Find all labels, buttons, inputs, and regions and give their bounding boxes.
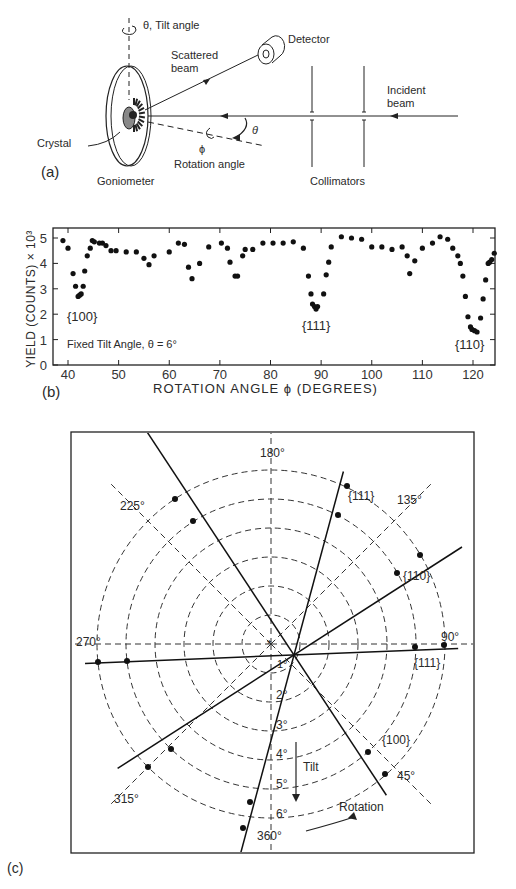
rot-label-135: 135° (397, 493, 422, 507)
x-tick-label: 80 (263, 367, 277, 382)
x-tick-label: 40 (61, 367, 75, 382)
data-point (243, 247, 248, 252)
intersection-dot (382, 771, 388, 777)
panel-c-label: (c) (7, 860, 23, 876)
data-point (260, 240, 265, 245)
data-point (379, 244, 384, 249)
panel-b-label: (b) (42, 383, 60, 400)
data-point (134, 249, 139, 254)
tilt-arrow-icon (292, 794, 300, 802)
intersection-dot (172, 496, 178, 502)
x-tick-label: 50 (111, 367, 125, 382)
y-axis-title: YIELD (COUNTS) × 10³ (24, 224, 38, 374)
data-point (339, 234, 344, 239)
plane-label-111-top: {111} (348, 489, 374, 503)
data-point (489, 257, 494, 262)
data-point (151, 253, 156, 258)
data-point (463, 294, 468, 299)
data-point (197, 261, 202, 266)
data-point (82, 268, 87, 273)
intersection-dot (247, 799, 253, 805)
dip-label-111: {111} (302, 318, 330, 333)
x-axis-title: ROTATION ANGLE ϕ (DEGREES) (153, 381, 378, 396)
rotation-curl-icon (206, 128, 214, 139)
intersection-dot (335, 512, 341, 518)
intersection-dot (168, 746, 174, 752)
plane-line-111-horizontal (85, 648, 458, 663)
data-point (349, 235, 354, 240)
data-point (329, 244, 334, 249)
rot-label-225: 225° (120, 499, 145, 513)
x-tick-label: 60 (162, 367, 176, 382)
crystal-core (129, 111, 137, 119)
data-point (306, 274, 311, 279)
data-point (445, 237, 450, 242)
scatter-spike (139, 119, 144, 122)
data-point (206, 244, 211, 249)
y-tick-label: 5 (40, 231, 47, 246)
data-point (73, 284, 78, 289)
data-point (430, 240, 435, 245)
data-point (324, 272, 329, 277)
rot-label-315: 315° (114, 792, 139, 806)
tilt-angle-label: θ, Tilt angle (143, 19, 199, 31)
theta-symbol: θ (252, 124, 258, 136)
rotation-arrow-shaft (306, 817, 354, 831)
x-tick-label: 100 (361, 367, 383, 382)
data-point (492, 251, 497, 256)
data-point (483, 277, 488, 282)
detector-aperture (263, 50, 269, 58)
x-tick-label: 120 (462, 367, 484, 382)
data-point (359, 237, 364, 242)
data-point (407, 271, 412, 276)
intersection-dot (95, 659, 101, 665)
theta-arc (235, 118, 247, 138)
center-marker: * (267, 638, 272, 650)
data-point (465, 314, 470, 319)
beam-arrow-icon (220, 113, 228, 119)
plane-label-110: {110} (403, 569, 430, 583)
rot-label-45: 45° (397, 769, 415, 783)
data-point (225, 246, 230, 251)
data-point (79, 291, 84, 296)
incident-beam-label-2: beam (387, 97, 415, 109)
plane-label-100: {100} (382, 733, 410, 747)
data-point (85, 253, 90, 258)
data-point (400, 244, 405, 249)
dip-label-100: {100} (67, 309, 97, 324)
intersection-dot (124, 658, 130, 664)
data-point (481, 296, 486, 301)
dip-label-110: {110} (455, 337, 484, 352)
data-point (437, 234, 442, 239)
data-point (321, 291, 326, 296)
crystal-label: Crystal (37, 137, 71, 149)
crystal-pointer (88, 132, 120, 146)
data-point (182, 242, 187, 247)
y-tick-label: 4 (40, 256, 47, 271)
plane-line-100 (146, 430, 387, 796)
y-tick-label: 1 (40, 333, 47, 348)
figure-canvas: 405060708090100110120012345* (0, 0, 516, 889)
detector-label: Detector (288, 33, 330, 45)
data-point (189, 276, 194, 281)
collimators-label: Collimators (310, 175, 365, 187)
phi-symbol: ϕ (199, 143, 205, 155)
rotation-arrow-label: Rotation (339, 800, 384, 814)
data-point (146, 262, 151, 267)
scatter-spike (139, 116, 145, 117)
data-point (70, 271, 75, 276)
data-point (167, 249, 172, 254)
rot-label-360: 360° (257, 829, 282, 843)
data-point (141, 256, 146, 261)
polar-grid: * (41, 414, 501, 874)
rot-label-270: 270° (76, 635, 101, 649)
data-point (389, 247, 394, 252)
data-point (227, 260, 232, 265)
panel-a-label: (a) (41, 163, 59, 180)
intersection-dot (190, 518, 196, 524)
intersection-dot (417, 552, 423, 558)
tilt-label-2: 2° (276, 688, 287, 702)
data-point (81, 284, 86, 289)
data-point (308, 291, 313, 296)
scattered-beam (145, 55, 258, 110)
